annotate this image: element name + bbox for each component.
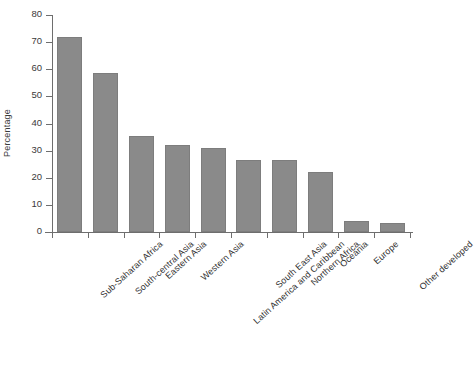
y-tick-label: 60 [18,62,42,73]
x-tick-mark [195,232,196,238]
bar [344,221,369,232]
bar [272,160,297,232]
plot-area: 01020304050607080 [52,15,410,232]
x-tick-mark [338,232,339,238]
y-tick-mark [46,96,52,97]
y-tick-label: 50 [18,89,42,100]
y-tick-label: 0 [18,225,42,236]
bar [308,172,333,232]
x-tick-mark [159,232,160,238]
x-tick-mark [374,232,375,238]
y-tick-mark [46,15,52,16]
y-tick-label: 30 [18,144,42,155]
x-axis-label: Latin America and Caribbean [252,239,347,326]
y-tick-mark [46,178,52,179]
y-tick-label: 20 [18,171,42,182]
y-tick-mark [46,205,52,206]
x-axis-label: Europe [372,239,401,266]
bar [380,223,405,232]
x-tick-mark [52,232,53,238]
bar [236,160,261,232]
x-tick-mark [303,232,304,238]
bar [165,145,190,232]
bar [129,136,154,232]
y-axis-title: Percentage [2,78,12,188]
y-tick-mark [46,151,52,152]
y-tick-mark [46,42,52,43]
y-tick-label: 80 [18,8,42,19]
x-axis-label: Other developed [418,239,475,292]
y-tick-mark [46,69,52,70]
x-tick-mark [88,232,89,238]
bar [57,37,82,232]
x-tick-mark [267,232,268,238]
x-tick-mark [231,232,232,238]
x-tick-mark [410,232,411,238]
y-tick-label: 40 [18,117,42,128]
y-tick-mark [46,124,52,125]
x-tick-mark [124,232,125,238]
bar [201,148,226,232]
y-tick-label: 70 [18,35,42,46]
bar [93,73,118,232]
y-tick-label: 10 [18,198,42,209]
x-axis-label: South-central Asia [133,239,195,297]
x-axis-line [45,232,413,233]
